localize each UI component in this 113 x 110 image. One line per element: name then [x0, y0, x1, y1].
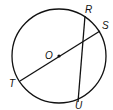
chord-ru: [78, 16, 85, 102]
center-dot: [57, 54, 60, 57]
label-r: R: [85, 4, 92, 15]
label-o: O: [45, 50, 53, 61]
label-t: T: [9, 78, 16, 89]
label-s: S: [102, 20, 109, 31]
label-u: U: [75, 100, 83, 110]
circle-diagram: O R S T U: [0, 0, 113, 110]
